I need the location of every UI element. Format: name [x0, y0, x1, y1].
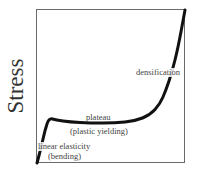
- annotation-bending: (bending): [48, 152, 81, 161]
- y-axis-label: Stress: [4, 59, 28, 114]
- annotation-densification: densification: [136, 68, 180, 77]
- annotation-linear-elasticity: linear elasticity: [38, 142, 90, 151]
- annotation-plateau: plateau: [86, 113, 111, 122]
- stress-strain-curve: [0, 0, 203, 174]
- annotation-plastic-yielding: (plastic yielding): [70, 127, 128, 136]
